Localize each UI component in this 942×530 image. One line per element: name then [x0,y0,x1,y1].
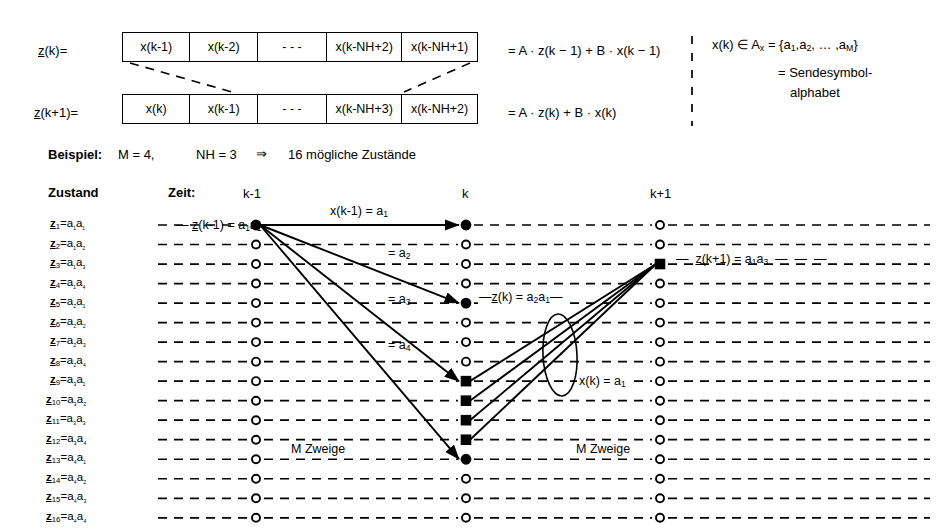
trellis-node-active [461,455,470,464]
trellis-node [656,299,664,307]
trellis-node [252,455,260,463]
trellis-node [656,397,664,405]
trellis-node [656,221,664,229]
annotation-branch-2: = a2 [388,247,410,260]
trellis-node [252,494,260,502]
trellis-node [252,397,260,405]
trellis-node [462,514,470,522]
trellis-node-merge [461,435,470,444]
trellis-node [462,260,470,268]
trellis-node [656,475,664,483]
trellis-node [656,416,664,424]
shift-connector [130,63,232,92]
trellis-node-merge [461,416,470,425]
trellis-node [252,319,260,327]
trellis-node-merge [461,396,470,405]
annotation-merge-label: x(k) = a1 [577,375,628,388]
trellis-node [252,475,260,483]
annotation-branches-right: M Zweige [573,443,633,456]
trellis-node [656,514,664,522]
trellis-node [656,494,664,502]
trellis-node [252,338,260,346]
trellis-node [252,514,260,522]
trellis-node [656,436,664,444]
trellis-node [656,241,664,249]
trellis-node [252,241,260,249]
trellis-node [462,241,470,249]
trellis-node-active [461,220,470,229]
annotation-branch-3: = a3 [388,293,410,306]
trellis-node [252,299,260,307]
trellis-node-merge [461,377,470,386]
trellis-node [656,455,664,463]
trellis-node [252,358,260,366]
trellis-node [656,280,664,288]
shift-connector [404,63,470,92]
trellis-node-merge [655,259,664,268]
annotation-branch-4: = a4 [388,339,410,352]
trellis-node [462,475,470,483]
trellis-node [252,260,260,268]
trellis-node [252,416,260,424]
trellis-node [656,319,664,327]
trellis-node [462,280,470,288]
trellis-node-active [461,298,470,307]
trellis-node [462,494,470,502]
trellis-node [252,280,260,288]
trellis-node [462,358,470,366]
trellis-node [252,377,260,385]
annotation-start-state: — z(k-1) = a1a1 [176,219,262,232]
trellis-node [462,338,470,346]
annotation-end-state: — z(k+1) = a1a3 — — — [676,253,827,266]
annotation-branches-left: M Zweige [288,443,348,456]
trellis-merge-branch [470,264,656,401]
trellis-node [656,358,664,366]
annotation-mid-state: —z(k) = a2a1— [478,291,563,304]
annotation-branch-top: x(k-1) = a1 [330,205,388,218]
trellis-node [656,377,664,385]
trellis-node [656,338,664,346]
trellis-node [252,436,260,444]
trellis-node [462,319,470,327]
